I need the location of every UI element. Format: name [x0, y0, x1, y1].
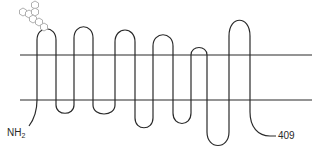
- c-terminus-label: 409: [278, 131, 295, 141]
- n-terminus-subscript: 2: [21, 132, 25, 139]
- n-terminus-text: NH: [7, 127, 21, 138]
- n-terminus-label: NH2: [7, 128, 25, 139]
- protein-topology-diagram: NH2 409: [0, 0, 312, 151]
- topology-svg: [0, 0, 312, 151]
- polypeptide-chain: [29, 20, 276, 145]
- sugar-chain-icon: [20, 1, 48, 31]
